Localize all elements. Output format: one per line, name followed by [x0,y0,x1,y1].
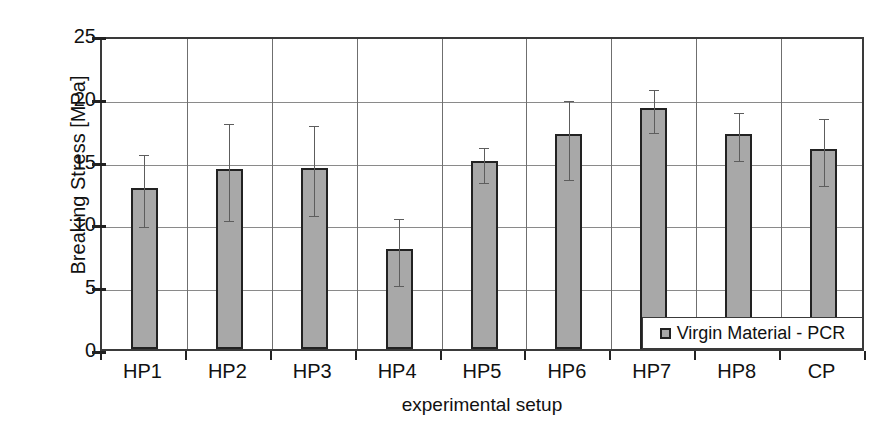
x-gridline [526,39,527,349]
x-gridline [696,39,697,349]
error-cap-lower [224,221,234,222]
y-tick-mark [92,37,106,40]
y-tick-label: 10 [54,214,96,234]
error-cap-lower [309,216,319,217]
y-tick-mark [92,163,106,166]
x-tick-mark [440,351,442,360]
error-bar-hp6 [569,101,570,180]
x-tick-label-hp3: HP3 [267,360,357,383]
error-cap-upper [734,113,744,114]
y-tick-mark [92,288,106,291]
error-bar-hp4 [399,219,400,287]
x-axis-title: experimental setup [100,394,864,416]
error-cap-lower [479,183,489,184]
error-cap-upper [394,219,404,220]
y-tick-label: 0 [54,340,96,360]
x-tick-label-hp7: HP7 [607,360,697,383]
x-gridline [357,39,358,349]
error-cap-lower [394,286,404,287]
x-tick-mark [694,351,696,360]
error-cap-upper [139,155,149,156]
x-tick-label-cp: CP [777,360,867,383]
error-cap-lower [819,186,829,187]
x-tick-label-hp5: HP5 [437,360,527,383]
error-bar-hp1 [144,155,145,228]
x-gridline [781,39,782,349]
legend: Virgin Material - PCR [642,317,863,349]
x-gridline [442,39,443,349]
legend-label: Virgin Material - PCR [677,323,846,344]
error-cap-lower [139,227,149,228]
x-tick-label-hp8: HP8 [692,360,782,383]
y-tick-mark [92,225,106,228]
error-bar-hp7 [654,90,655,133]
bar-hp7 [640,108,667,349]
x-tick-mark [779,351,781,360]
error-cap-upper [309,126,319,127]
error-cap-lower [649,133,659,134]
error-cap-upper [564,101,574,102]
error-cap-lower [564,180,574,181]
x-gridline [611,39,612,349]
x-tick-label-hp2: HP2 [182,360,272,383]
error-cap-upper [649,90,659,91]
x-tick-label-hp4: HP4 [352,360,442,383]
legend-swatch-icon [660,328,671,339]
x-tick-label-hp1: HP1 [97,360,187,383]
y-gridline [102,102,862,103]
error-bar-hp3 [314,126,315,216]
error-cap-upper [479,148,489,149]
y-tick-label: 25 [54,26,96,46]
y-tick-mark [92,100,106,103]
x-tick-mark [355,351,357,360]
y-tick-label: 20 [54,89,96,109]
x-gridline [272,39,273,349]
error-cap-lower [734,161,744,162]
plot-area [100,37,864,351]
x-gridline [187,39,188,349]
error-bar-hp2 [229,124,230,221]
bar-chart-figure: Breaking Stress [MPa] 0510152025 HP1HP2H… [0,0,894,435]
x-tick-mark [864,351,866,360]
error-cap-upper [224,124,234,125]
y-tick-label: 5 [54,277,96,297]
x-tick-label-hp6: HP6 [522,360,612,383]
error-bar-cp [824,119,825,186]
y-tick-label: 15 [54,152,96,172]
x-tick-mark [185,351,187,360]
error-bar-hp5 [484,148,485,183]
x-tick-mark [609,351,611,360]
x-tick-mark [524,351,526,360]
error-bar-hp8 [739,113,740,161]
y-axis-ticks: 0510152025 [40,0,96,435]
x-tick-mark [270,351,272,360]
error-cap-upper [819,119,829,120]
bar-hp5 [471,161,498,349]
y-tick-mark [92,351,106,354]
